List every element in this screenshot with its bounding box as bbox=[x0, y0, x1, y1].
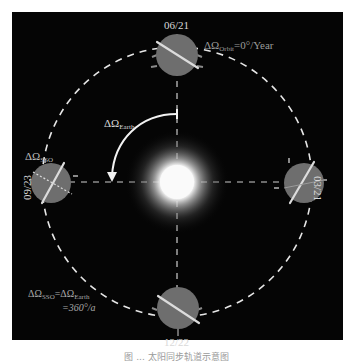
earth-subscript: Earth bbox=[119, 123, 134, 131]
equation-value: =360°/a bbox=[62, 302, 96, 313]
orbit-value: =0°/Year bbox=[234, 39, 273, 51]
sso-equation-line1: ΔΩSSO=ΔΩEarth bbox=[28, 289, 89, 301]
equals-omega: =ΔΩ bbox=[55, 288, 75, 299]
omega-symbol: ΔΩ bbox=[28, 288, 42, 299]
earth-december bbox=[152, 287, 202, 336]
arrow-head-icon bbox=[107, 172, 117, 182]
omega-symbol: ΔΩ bbox=[104, 117, 119, 129]
date-label-left: 09/23 bbox=[22, 175, 33, 200]
orbit-subscript: Orbit bbox=[219, 45, 234, 53]
figure-caption: 图 ... 太阳同步轨道示意图 bbox=[0, 350, 353, 362]
delta-omega-sso-label: ΔΩSSO bbox=[25, 151, 53, 164]
date-label-top: 06/21 bbox=[164, 20, 189, 31]
date-label-bottom: 12/22 bbox=[164, 337, 189, 348]
sso-subscript: SSO bbox=[42, 293, 55, 301]
omega-symbol: ΔΩ bbox=[204, 39, 219, 51]
delta-omega-orbit-label: ΔΩOrbit=0°/Year bbox=[204, 40, 273, 53]
sun-icon bbox=[160, 165, 194, 199]
sso-equation-line2: =360°/a bbox=[62, 303, 96, 313]
orbit-diagram bbox=[0, 0, 353, 362]
omega-symbol: ΔΩ bbox=[25, 150, 40, 162]
earth-subscript: Earth bbox=[74, 293, 89, 301]
earth-june bbox=[151, 34, 203, 76]
delta-omega-earth-label: ΔΩEarth bbox=[104, 118, 134, 131]
date-label-right: 03/21 bbox=[312, 176, 323, 201]
earth-september bbox=[29, 159, 78, 203]
sso-subscript: SSO bbox=[40, 156, 53, 164]
